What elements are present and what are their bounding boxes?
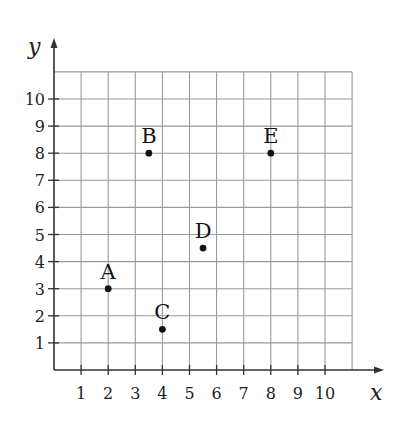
y-tick-label: 4 <box>35 253 45 272</box>
y-tick-label: 2 <box>35 307 45 326</box>
point-label: D <box>195 219 212 243</box>
x-tick-label: 10 <box>315 384 335 403</box>
x-tick-label: 3 <box>130 384 140 403</box>
coordinate-plane: 1234567891012345678910 ABCDE x y <box>0 0 406 421</box>
y-axis-label: y <box>27 34 41 59</box>
point-label: E <box>263 124 278 148</box>
x-tick-label: 8 <box>266 384 276 403</box>
point-marker <box>145 150 152 157</box>
point-marker <box>105 285 112 292</box>
point-label: A <box>100 260 117 284</box>
point-d: D <box>195 219 212 251</box>
point-c: C <box>154 300 170 332</box>
point-marker <box>159 326 166 333</box>
point-a: A <box>100 260 117 292</box>
y-tick-label: 3 <box>35 280 45 299</box>
x-tick-label: 6 <box>212 384 222 403</box>
x-axis-label: x <box>370 380 383 405</box>
point-marker <box>200 245 207 252</box>
point-b: B <box>141 124 156 156</box>
y-tick-label: 1 <box>35 334 45 353</box>
x-tick-label: 2 <box>103 384 113 403</box>
y-tick-label: 7 <box>35 171 45 190</box>
y-tick-label: 6 <box>35 198 45 217</box>
point-label: C <box>154 300 170 324</box>
y-tick-label: 10 <box>25 90 45 109</box>
y-tick-label: 5 <box>35 226 45 245</box>
y-tick-label: 8 <box>35 144 45 163</box>
x-tick-label: 1 <box>76 384 86 403</box>
y-tick-label: 9 <box>35 117 45 136</box>
x-tick-label: 5 <box>184 384 194 403</box>
x-tick-label: 4 <box>157 384 167 403</box>
point-marker <box>267 150 274 157</box>
axes <box>51 38 385 374</box>
point-label: B <box>141 124 156 148</box>
x-tick-label: 7 <box>239 384 249 403</box>
x-tick-label: 9 <box>293 384 303 403</box>
y-axis-arrow-icon <box>51 38 58 48</box>
point-e: E <box>263 124 278 156</box>
tick-labels: 1234567891012345678910 <box>25 90 336 403</box>
x-axis-arrow-icon <box>374 367 384 374</box>
